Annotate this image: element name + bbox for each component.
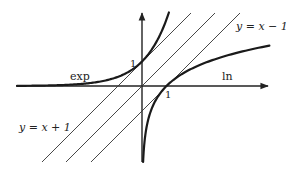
- line-plus-label: y = x + 1: [18, 121, 71, 134]
- line-minus-label: y = x − 1: [235, 20, 288, 33]
- line-y-equals-x: [66, 13, 215, 162]
- tick-label-y-one: 1: [130, 58, 136, 69]
- exp-label: exp: [70, 70, 90, 83]
- ln-label: ln: [222, 70, 233, 83]
- line-y-equals-x-plus-1: [42, 13, 191, 162]
- exp-curve: [17, 13, 169, 86]
- ln-curve: [143, 46, 269, 162]
- tick-label-x-one: 1: [165, 89, 171, 100]
- exp-ln-diagram: exp ln y = x + 1 y = x − 1 1 1: [0, 0, 290, 174]
